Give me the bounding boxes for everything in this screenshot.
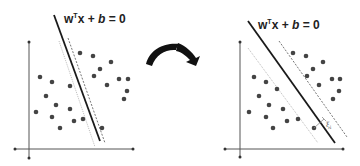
- left-panel: wTx + b = 0: [14, 12, 135, 160]
- right-margin-dashed: [279, 41, 347, 137]
- svm-diagram: wTx + b = 0 wTx + b = 0: [0, 0, 360, 166]
- left-axes: [14, 41, 135, 160]
- right-equation: wTx + b = 0: [257, 18, 320, 32]
- right-axes: [224, 41, 345, 159]
- slack-label: ξi: [326, 121, 332, 130]
- left-class-positive-points: [78, 51, 131, 102]
- curved-arrow-icon: [146, 43, 200, 66]
- right-panel: wTx + b = 0 ξi: [224, 18, 348, 159]
- left-margin-dotted: [59, 41, 95, 147]
- slack-indicator: ξi: [314, 117, 332, 130]
- right-hyperplane: [248, 21, 335, 143]
- left-margin-dashed: [68, 38, 105, 143]
- left-equation: wTx + b = 0: [63, 12, 126, 26]
